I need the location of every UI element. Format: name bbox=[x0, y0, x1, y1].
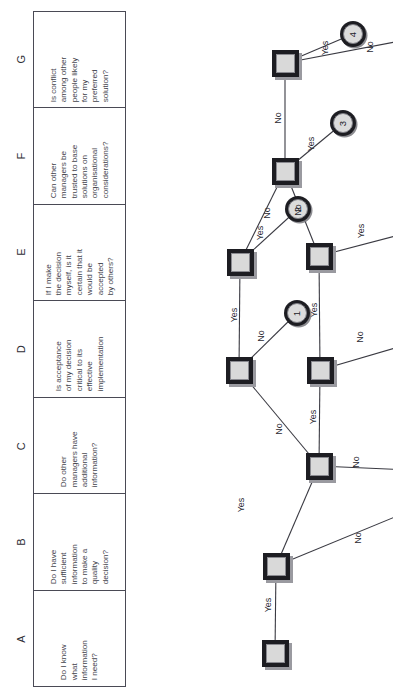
outcome-circle-face: 4 bbox=[343, 24, 363, 44]
column-letter-b: B bbox=[15, 538, 27, 546]
edge-a-yes-label: Yes bbox=[263, 598, 273, 613]
outcome-number: 4 bbox=[347, 31, 358, 36]
column-letter-slot: E bbox=[11, 242, 31, 262]
decision-tree-diagram: 12345678YesNoYesNoYesNoNoYesNoYesYesNoYe… bbox=[130, 0, 393, 699]
question-cell-e: If I make the decision myself, is it cer… bbox=[33, 204, 126, 300]
node-inner bbox=[310, 457, 329, 476]
question-text: Is acceptance of my decision critical to… bbox=[53, 304, 105, 395]
column-letter-slot: B bbox=[11, 532, 31, 552]
node-d-upper[interactable] bbox=[226, 357, 256, 387]
column-letter-slot: F bbox=[11, 146, 31, 166]
node-c[interactable] bbox=[306, 453, 336, 483]
node-g[interactable] bbox=[272, 50, 302, 80]
question-cell-g: Is conflict among other people likely fo… bbox=[33, 11, 126, 107]
edge-e-up-yes-label: Yes bbox=[255, 226, 265, 241]
column-letter-a: A bbox=[15, 635, 27, 643]
node-outer bbox=[227, 249, 254, 276]
column-letter-e: E bbox=[15, 249, 27, 257]
edge-b-yes-c-label: Yes bbox=[236, 498, 246, 513]
outcome-1[interactable]: 1 bbox=[284, 300, 310, 326]
node-d-lower[interactable] bbox=[307, 357, 337, 387]
node-e-upper[interactable] bbox=[227, 249, 257, 279]
question-text: Do other managers have additional inform… bbox=[59, 400, 101, 491]
outcome-4[interactable]: 4 bbox=[340, 21, 366, 47]
question-text: Is conflict among other people likely fo… bbox=[48, 14, 110, 105]
question-text: Can other managers be trusted to base so… bbox=[48, 111, 110, 202]
edge-f-yes-label: Yes bbox=[306, 137, 316, 152]
edge-g-no-label: No bbox=[365, 41, 375, 53]
edge-f-no-label: No bbox=[273, 112, 283, 124]
column-letter-f: F bbox=[15, 152, 27, 159]
question-text: Do I have sufficient information to make… bbox=[48, 497, 110, 588]
node-inner bbox=[276, 162, 295, 181]
question-table: Do I know what information I need?Do I h… bbox=[33, 11, 126, 687]
edge-g-yes-label: Yes bbox=[320, 41, 330, 56]
question-cell-a: Do I know what information I need? bbox=[33, 590, 126, 687]
edge-d-up-no-label: No bbox=[256, 330, 266, 342]
node-outer bbox=[307, 357, 334, 384]
node-outer bbox=[272, 158, 299, 185]
node-outer bbox=[263, 553, 290, 580]
outcome-number: 3 bbox=[337, 120, 348, 125]
node-inner bbox=[230, 361, 249, 380]
node-inner bbox=[231, 253, 250, 272]
column-letter-strip: ABCDEFG bbox=[11, 11, 31, 687]
node-a[interactable] bbox=[262, 640, 292, 670]
column-letter-slot: G bbox=[11, 49, 31, 69]
node-inner bbox=[266, 644, 285, 663]
node-outer bbox=[306, 243, 333, 270]
column-letter-slot: A bbox=[11, 629, 31, 649]
question-cell-d: Is acceptance of my decision critical to… bbox=[33, 300, 126, 396]
edge-d-low-yes-label: Yes bbox=[309, 303, 319, 318]
column-letter-slot: C bbox=[11, 436, 31, 456]
edge-e-low-no-label: No bbox=[293, 204, 303, 216]
question-cell-b: Do I have sufficient information to make… bbox=[33, 493, 126, 589]
question-text: Do I know what information I need? bbox=[59, 593, 101, 684]
node-inner bbox=[311, 361, 330, 380]
column-letter-c: C bbox=[15, 441, 27, 449]
edge-c-yes-d-label: Yes bbox=[308, 410, 318, 425]
node-outer bbox=[262, 640, 289, 667]
column-letter-d: D bbox=[15, 345, 27, 353]
node-outer bbox=[226, 357, 253, 384]
node-outer bbox=[272, 50, 299, 77]
column-letter-g: G bbox=[15, 55, 27, 64]
outcome-3[interactable]: 3 bbox=[330, 110, 356, 136]
figure-root: ABCDEFG Do I know what information I nee… bbox=[0, 0, 393, 699]
edge-b-no-outcome8 bbox=[276, 474, 393, 566]
outcome-circle-face: 1 bbox=[287, 303, 307, 323]
edge-e-low-yes-label: Yes bbox=[356, 224, 366, 239]
node-b[interactable] bbox=[263, 553, 293, 583]
edge-lines bbox=[130, 0, 393, 699]
edge-c-no-outcome8-label: No bbox=[351, 456, 361, 468]
question-cell-c: Do other managers have additional inform… bbox=[33, 397, 126, 493]
edge-d-up-yes-label: Yes bbox=[229, 308, 239, 323]
question-cell-f: Can other managers be trusted to base so… bbox=[33, 107, 126, 203]
node-inner bbox=[310, 247, 329, 266]
question-text: If I make the decision myself, is it cer… bbox=[43, 207, 116, 298]
edge-b-no-outcome8-label: No bbox=[353, 532, 363, 544]
node-e-lower[interactable] bbox=[306, 243, 336, 273]
node-outer bbox=[306, 453, 333, 480]
outcome-circle-face: 3 bbox=[333, 113, 353, 133]
edge-c-no-d-upper-label: No bbox=[274, 423, 284, 435]
node-inner bbox=[267, 557, 286, 576]
edge-d-low-no-label: No bbox=[355, 331, 365, 343]
edge-e-up-no-label: No bbox=[262, 207, 272, 219]
outcome-number: 1 bbox=[291, 310, 302, 315]
node-inner bbox=[276, 54, 295, 73]
column-letter-slot: D bbox=[11, 339, 31, 359]
node-f[interactable] bbox=[272, 158, 302, 188]
